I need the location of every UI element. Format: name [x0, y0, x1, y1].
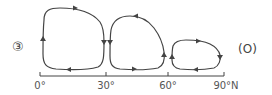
- tick-label-0: 0°: [34, 80, 45, 91]
- arrow-icon: [40, 6, 107, 73]
- option-tag: (O): [238, 42, 257, 56]
- latitude-axis: [40, 72, 224, 76]
- arrow-icon: [107, 14, 167, 72]
- tick-label-30: 30°: [97, 80, 115, 91]
- cell-0-30: [43, 8, 104, 70]
- tick-label-60: 60°: [159, 80, 177, 91]
- cell-30-60: [110, 16, 164, 70]
- tick-label-90n: 90°N: [213, 80, 238, 91]
- cell-60-90: [172, 40, 220, 70]
- item-number: ③: [12, 39, 24, 54]
